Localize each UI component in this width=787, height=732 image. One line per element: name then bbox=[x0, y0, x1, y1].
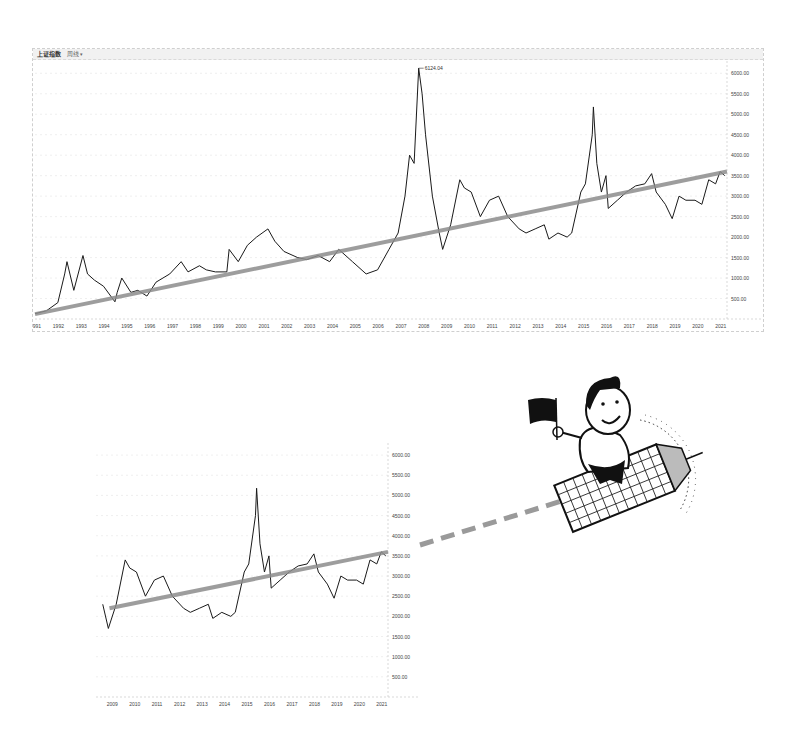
building-icon bbox=[554, 429, 712, 532]
cartoon-man-riding-rocket-building bbox=[410, 360, 730, 560]
man-icon bbox=[553, 376, 630, 484]
